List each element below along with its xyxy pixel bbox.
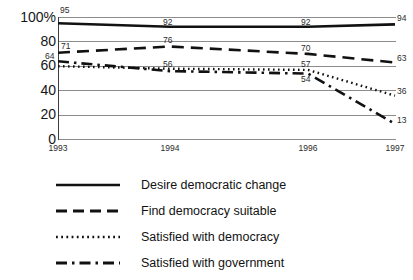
legend-swatch-dash-dot-line-icon bbox=[56, 257, 120, 269]
point-label-suitable-1997: 63 bbox=[397, 54, 406, 63]
x-tick-label-1993: 1993 bbox=[49, 143, 68, 153]
legend-label-desire-democratic-change: Desire democratic change bbox=[141, 178, 286, 192]
legend-swatch-dotted-line-icon bbox=[56, 231, 120, 243]
y-axis: 100% 80 60 40 20 0 bbox=[0, 10, 56, 145]
legend-label-satisfied-with-government: Satisfied with government bbox=[141, 256, 284, 270]
legend-item-satisfied-with-democracy: Satisfied with democracy bbox=[56, 224, 396, 250]
legend-swatch-solid-line-icon bbox=[56, 179, 120, 191]
point-label-desire-1994: 92 bbox=[163, 18, 172, 27]
point-label-satisfied-government-1994: 56 bbox=[163, 60, 172, 69]
point-label-satisfied-government-1996: 54 bbox=[301, 75, 310, 84]
series-line-find-democracy-suitable bbox=[58, 47, 395, 63]
point-label-satisfied-democracy-1996: 57 bbox=[301, 60, 310, 69]
chart-legend: Desire democratic change Find democracy … bbox=[56, 172, 396, 276]
x-tick-label-1997: 1997 bbox=[386, 143, 405, 153]
y-tick-label-100: 100% bbox=[20, 10, 56, 24]
point-label-desire-1996: 92 bbox=[301, 18, 310, 27]
point-label-satisfied-democracy-1997: 36 bbox=[397, 87, 406, 96]
y-tick-label-20: 20 bbox=[40, 107, 56, 121]
series-line-satisfied-with-democracy bbox=[58, 66, 395, 96]
legend-item-find-democracy-suitable: Find democracy suitable bbox=[56, 198, 396, 224]
series-line-desire-democratic-change bbox=[58, 23, 395, 27]
point-label-desire-1993: 95 bbox=[60, 6, 69, 15]
plot-area: 95 92 92 94 71 76 70 63 57 36 64 56 54 1… bbox=[58, 17, 396, 140]
legend-label-satisfied-with-democracy: Satisfied with democracy bbox=[141, 230, 279, 244]
legend-item-satisfied-with-government: Satisfied with government bbox=[56, 250, 396, 276]
chart-plot-svg bbox=[58, 17, 396, 140]
point-label-suitable-1993: 71 bbox=[61, 42, 70, 51]
y-tick-label-40: 40 bbox=[40, 83, 56, 97]
x-axis: 1993 1994 1996 1997 bbox=[58, 143, 406, 157]
series-line-satisfied-with-government bbox=[58, 61, 395, 124]
x-tick-label-1996: 1996 bbox=[299, 143, 318, 153]
point-label-desire-1997: 94 bbox=[397, 14, 406, 23]
point-label-satisfied-government-1997: 13 bbox=[397, 116, 406, 125]
legend-label-find-democracy-suitable: Find democracy suitable bbox=[141, 204, 276, 218]
chart-figure: 100% 80 60 40 20 0 bbox=[0, 0, 413, 280]
legend-item-desire-democratic-change: Desire democratic change bbox=[56, 172, 396, 198]
y-tick-label-80: 80 bbox=[40, 34, 56, 48]
gridlines bbox=[58, 18, 396, 140]
legend-swatch-dashed-line-icon bbox=[56, 205, 120, 217]
point-label-satisfied-government-1993: 64 bbox=[45, 52, 54, 61]
point-label-suitable-1996: 70 bbox=[301, 44, 310, 53]
x-tick-label-1994: 1994 bbox=[161, 143, 180, 153]
point-label-suitable-1994: 76 bbox=[163, 36, 172, 45]
